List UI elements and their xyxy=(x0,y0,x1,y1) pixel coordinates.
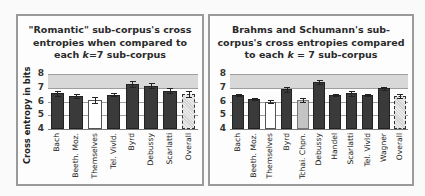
bar-bach xyxy=(51,93,65,129)
error-cap xyxy=(236,96,242,97)
error-cap xyxy=(92,103,98,104)
y-tick-label: 6 xyxy=(216,96,226,106)
right-title-3c: = 7 sub-corpus xyxy=(294,49,378,60)
x-tick-label: Bach xyxy=(233,133,242,183)
left-chart-title: "Romantic" sub-corpus's cross entropies … xyxy=(18,24,202,62)
x-tick-label: Wagner xyxy=(379,133,388,183)
right-title-line-3: to each k = 7 sub-corpus xyxy=(210,49,412,62)
gridline-8 xyxy=(48,74,198,75)
bar-themselves xyxy=(265,102,277,130)
bar-overall xyxy=(182,94,196,129)
right-chart-title: Brahms and Schumann's sub- corpus's cros… xyxy=(210,24,412,62)
left-title-3c: =7 sub-corpus xyxy=(89,49,166,60)
error-cap xyxy=(149,83,155,84)
bar-tel-vivld xyxy=(362,95,374,129)
error-cap xyxy=(365,94,371,95)
left-title-line-2: entropies when compared to xyxy=(18,37,202,50)
error-cap xyxy=(111,93,117,94)
x-tick-label: Beeth. Moz. xyxy=(249,133,258,183)
x-axis-line xyxy=(230,129,408,130)
error-cap xyxy=(381,87,387,88)
error-cap xyxy=(397,94,403,95)
bar-byrd xyxy=(126,84,140,129)
bar-bach xyxy=(232,95,244,129)
bar-beeth-moz- xyxy=(69,96,83,129)
error-cap xyxy=(167,88,173,89)
left-title-3a: each xyxy=(54,49,83,60)
error-cap xyxy=(55,96,61,97)
left-y-axis-label: Cross entropy in bits xyxy=(22,66,32,164)
error-cap xyxy=(333,94,339,95)
x-tick-label: Bach xyxy=(52,133,61,183)
x-tick-label: Scarlatti xyxy=(346,133,355,183)
right-plot-area: 45678BachBeeth. Moz.ThemselvesByrdTchai.… xyxy=(230,74,408,129)
error-cap xyxy=(268,100,274,101)
x-tick-label: Tchai. Chpn. xyxy=(298,133,307,183)
error-cap xyxy=(381,90,387,91)
shaded-band xyxy=(48,74,198,88)
x-tick-label: Byrd xyxy=(282,133,291,183)
error-cap xyxy=(349,96,355,97)
x-tick-label: Scarlatti xyxy=(165,133,174,183)
error-cap xyxy=(333,96,339,97)
error-cap xyxy=(130,87,136,88)
right-title-3a: to each xyxy=(245,49,288,60)
x-tick-label: Debussy xyxy=(146,133,155,183)
y-tick-label: 7 xyxy=(34,82,44,92)
error-cap xyxy=(186,97,192,98)
error-cap xyxy=(186,91,192,92)
left-title-line-1: "Romantic" sub-corpus's cross xyxy=(18,24,202,37)
bar-debussy xyxy=(313,82,325,129)
error-cap xyxy=(284,87,290,88)
error-cap xyxy=(397,98,403,99)
x-tick-label: Tel. Vivld xyxy=(363,133,372,183)
error-cap xyxy=(365,96,371,97)
x-axis-line xyxy=(48,129,198,130)
y-tick-label: 5 xyxy=(34,109,44,119)
error-cap xyxy=(236,94,242,95)
gridline-8 xyxy=(230,74,408,75)
bar-overall xyxy=(394,96,406,129)
error-cap xyxy=(111,96,117,97)
right-chart-panel: Brahms and Schumann's sub- corpus's cros… xyxy=(208,14,414,186)
right-title-line-1: Brahms and Schumann's sub- xyxy=(210,24,412,37)
bar-handel xyxy=(329,95,341,129)
gridline-7 xyxy=(48,88,198,89)
x-tick-label: Handel xyxy=(330,133,339,183)
x-tick-label: Themselves xyxy=(90,133,99,183)
x-tick-label: Overall xyxy=(184,133,193,183)
x-tick-label: Tel. Vivld. xyxy=(109,133,118,183)
error-cap xyxy=(74,94,80,95)
x-tick-label: Byrd xyxy=(127,133,136,183)
y-tick-label: 7 xyxy=(216,82,226,92)
y-tick-label: 5 xyxy=(216,109,226,119)
y-tick-label: 4 xyxy=(34,123,44,133)
error-cap xyxy=(300,102,306,103)
y-tick-label: 8 xyxy=(216,68,226,78)
bar-scarlatti xyxy=(346,93,358,129)
x-tick-label: Overall xyxy=(395,133,404,183)
error-cap xyxy=(55,91,61,92)
error-cap xyxy=(149,88,155,89)
left-title-line-3: each k=7 sub-corpus xyxy=(18,49,202,62)
left-chart-panel: "Romantic" sub-corpus's cross entropies … xyxy=(16,14,204,186)
bar-byrd xyxy=(281,89,293,129)
x-tick-label: Debussy xyxy=(314,133,323,183)
x-tick-label: Themselves xyxy=(265,133,274,183)
error-cap xyxy=(92,97,98,98)
error-cap xyxy=(317,80,323,81)
bar-tchai-chpn- xyxy=(297,100,309,129)
error-cap xyxy=(349,91,355,92)
bar-themselves xyxy=(88,100,102,129)
bar-debussy xyxy=(144,86,158,129)
right-title-line-2: corpus's cross entropies compared xyxy=(210,37,412,50)
error-cap xyxy=(74,98,80,99)
y-tick-label: 4 xyxy=(216,123,226,133)
error-cap xyxy=(252,100,258,101)
y-tick-label: 8 xyxy=(34,68,44,78)
error-cap xyxy=(284,92,290,93)
bar-wagner xyxy=(378,88,390,129)
error-cap xyxy=(130,81,136,82)
bar-tel-vivld- xyxy=(107,95,121,129)
bar-beeth-moz- xyxy=(248,99,260,129)
